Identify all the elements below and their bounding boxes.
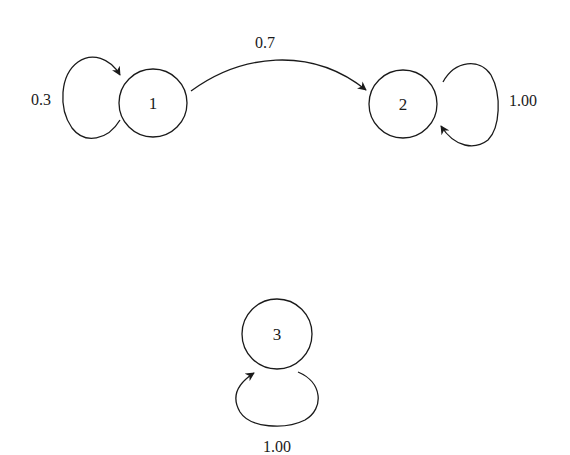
edge-1-to-2 [191,60,366,91]
state-label-3: 3 [273,325,282,344]
edge-1-to-1 [63,57,120,138]
edge-label-3-to-3: 1.00 [263,438,291,455]
state-label-2: 2 [399,95,408,114]
state-label-1: 1 [149,94,158,113]
state-node-3: 3 [242,299,312,369]
edge-label-1-to-2: 0.7 [255,34,275,51]
edge-2-to-2 [441,64,498,146]
edge-label-2-to-2: 1.00 [509,92,537,109]
edge-3-to-3 [236,372,318,426]
state-node-2: 2 [369,70,437,138]
edge-label-1-to-1: 0.3 [31,91,51,108]
markov-chain-diagram: 0.3 0.7 1.00 1.00 1 2 3 [0,0,570,455]
state-node-1: 1 [119,69,187,137]
